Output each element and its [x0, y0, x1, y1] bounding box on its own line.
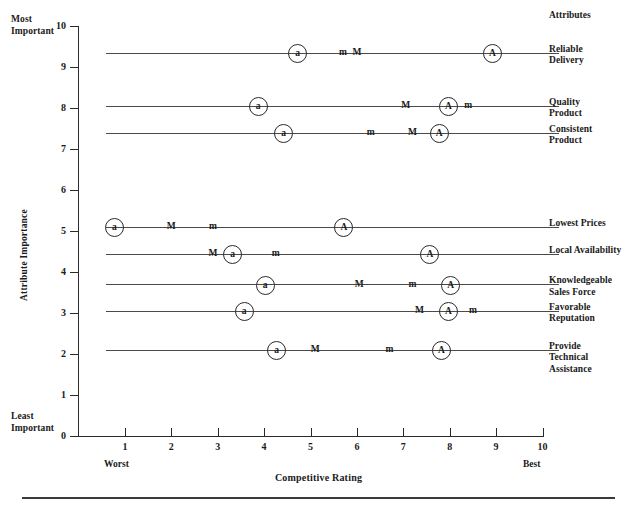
attribute-label: Local Availability	[549, 245, 637, 257]
rating-marker-M: M	[413, 304, 427, 317]
rating-marker-m: m	[466, 304, 480, 317]
attribute-row-line	[106, 284, 558, 285]
y-tick-label-5: 5	[46, 226, 66, 236]
x-tick-label-1: 1	[113, 441, 137, 453]
rating-marker-m: m	[336, 46, 350, 59]
rating-marker-M: M	[308, 343, 322, 356]
competitive-rating-chart: 012345678910 12345678910 MostImportant L…	[0, 0, 637, 509]
y-tick-7	[70, 149, 79, 150]
most-important-label: MostImportant	[11, 14, 54, 37]
rating-marker-M: M	[164, 220, 178, 233]
rating-marker-m: m	[461, 99, 475, 112]
attributes-column-header: Attributes	[549, 10, 591, 20]
y-tick-5	[70, 231, 79, 232]
rating-marker-m: m	[269, 247, 283, 260]
rating-marker-m: m	[382, 343, 396, 356]
x-axis-title: Competitive Rating	[0, 472, 637, 483]
y-tick-8	[70, 108, 79, 109]
bottom-rule	[22, 497, 615, 499]
rating-marker-a: a	[274, 124, 293, 143]
y-tick-label-4: 4	[46, 267, 66, 277]
attribute-row-line	[106, 106, 558, 107]
x-tick-5	[311, 428, 312, 437]
x-tick-label-2: 2	[159, 441, 183, 453]
rating-marker-a: a	[267, 341, 286, 360]
rating-marker-A: A	[483, 44, 502, 63]
rating-marker-a: a	[249, 97, 268, 116]
y-tick-2	[70, 354, 79, 355]
x-tick-8	[450, 428, 451, 437]
rating-marker-A: A	[430, 124, 449, 143]
attribute-label: KnowledgeableSales Force	[549, 275, 637, 298]
least-important-label: LeastImportant	[11, 411, 54, 434]
attribute-label: FavorableReputation	[549, 302, 637, 325]
x-tick-label-8: 8	[438, 441, 462, 453]
x-tick-label-9: 9	[484, 441, 508, 453]
best-label: Best	[523, 459, 540, 469]
attribute-label: QualityProduct	[549, 97, 637, 120]
x-tick-label-7: 7	[391, 441, 415, 453]
rating-marker-a: a	[105, 218, 124, 237]
y-tick-1	[70, 395, 79, 396]
rating-marker-A: A	[439, 97, 458, 116]
y-axis-title: Attribute Importance	[19, 175, 29, 335]
attribute-row-line	[106, 350, 558, 351]
attribute-row-line	[106, 133, 558, 134]
rating-marker-m: m	[406, 278, 420, 291]
y-tick-label-3: 3	[46, 308, 66, 318]
x-tick-6	[357, 428, 358, 437]
rating-marker-A: A	[441, 276, 460, 295]
rating-marker-m: m	[364, 126, 378, 139]
y-tick-label-9: 9	[46, 62, 66, 72]
y-tick-6	[70, 190, 79, 191]
x-tick-4	[264, 428, 265, 437]
y-tick-label-1: 1	[46, 390, 66, 400]
y-tick-9	[70, 67, 79, 68]
attribute-label: ConsistentProduct	[549, 124, 637, 147]
rating-marker-A: A	[439, 302, 458, 321]
x-tick-label-3: 3	[206, 441, 230, 453]
rating-marker-a: a	[288, 44, 307, 63]
y-tick-3	[70, 313, 79, 314]
rating-marker-M: M	[350, 46, 364, 59]
rating-marker-M: M	[352, 278, 366, 291]
attribute-label: ReliableDelivery	[549, 44, 637, 67]
worst-label: Worst	[104, 459, 129, 469]
y-tick-label-8: 8	[46, 103, 66, 113]
rating-marker-a: a	[235, 302, 254, 321]
x-tick-1	[125, 428, 126, 437]
attribute-label: Lowest Prices	[549, 218, 637, 230]
x-tick-label-4: 4	[252, 441, 276, 453]
rating-marker-m: m	[206, 220, 220, 233]
x-tick-label-5: 5	[299, 441, 323, 453]
y-tick-label-6: 6	[46, 185, 66, 195]
rating-marker-M: M	[206, 247, 220, 260]
attribute-row-line	[106, 254, 558, 255]
rating-marker-A: A	[420, 245, 439, 264]
rating-marker-a: a	[223, 245, 242, 264]
x-tick-label-6: 6	[345, 441, 369, 453]
rating-marker-M: M	[406, 126, 420, 139]
x-tick-3	[218, 428, 219, 437]
rating-marker-M: M	[399, 99, 413, 112]
x-tick-7	[403, 428, 404, 437]
rating-marker-a: a	[256, 276, 275, 295]
y-tick-0	[70, 436, 79, 437]
y-tick-label-2: 2	[46, 349, 66, 359]
rating-marker-A: A	[334, 218, 353, 237]
attribute-row-line	[106, 311, 558, 312]
x-tick-label-10: 10	[531, 441, 555, 453]
y-tick-4	[70, 272, 79, 273]
x-tick-10	[543, 428, 544, 437]
attribute-label: ProvideTechnicalAssistance	[549, 341, 637, 376]
x-tick-9	[496, 428, 497, 437]
rating-marker-A: A	[432, 341, 451, 360]
y-tick-label-7: 7	[46, 144, 66, 154]
y-tick-10	[70, 26, 79, 27]
x-tick-2	[171, 428, 172, 437]
